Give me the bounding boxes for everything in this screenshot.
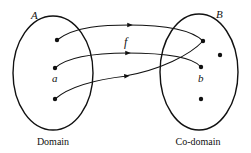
function-diagram: A a B b f Domain Co-domain xyxy=(0,0,251,153)
mapping-arrow-1 xyxy=(57,25,130,40)
mapping-arrow-3 xyxy=(55,76,127,99)
set-b-label: B xyxy=(216,8,223,20)
element-a-label: a xyxy=(52,72,58,84)
codomain-point-2 xyxy=(218,53,222,57)
function-f-label: f xyxy=(124,35,129,49)
domain-caption: Domain xyxy=(37,136,69,147)
codomain-point-4 xyxy=(199,97,203,101)
codomain-caption: Co-domain xyxy=(176,136,221,147)
set-a-label: A xyxy=(30,9,38,21)
element-b-label: b xyxy=(198,72,204,84)
